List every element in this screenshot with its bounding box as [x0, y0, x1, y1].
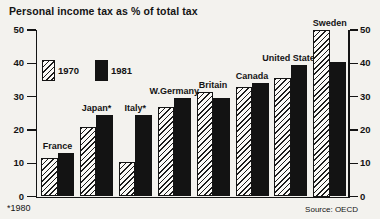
y-tick-left-50: [27, 29, 36, 31]
bar-1981-canada: [252, 83, 269, 196]
y-tick-label-left-20: 20: [2, 124, 24, 136]
legend-swatch-1981: [95, 60, 108, 81]
bar-1981-france: [58, 153, 75, 196]
country-label-britain: Britain: [199, 80, 228, 90]
country-label-japan: Japan*: [82, 103, 112, 113]
y-tick-right-30: [350, 96, 359, 98]
chart-title: Personal income tax as % of total tax: [9, 5, 198, 17]
bar-1970-britain: [197, 92, 214, 197]
y-tick-label-right-0: 0: [360, 191, 365, 203]
y-tick-right-40: [350, 63, 359, 65]
chart-panel: Personal income tax as % of total tax 19…: [0, 0, 380, 219]
bar-1970-italy: [119, 162, 136, 197]
bar-1981-sweden: [330, 62, 347, 197]
bar-1970-united-states: [274, 78, 291, 196]
bar-1981-italy: [135, 115, 152, 197]
country-label-united-states: United States: [262, 53, 320, 63]
x-axis-baseline: [36, 197, 350, 199]
bar-1981-w-germany: [174, 98, 191, 196]
y-tick-left-20: [27, 129, 36, 131]
legend-label-1970: 1970: [58, 65, 79, 76]
y-tick-label-right-50: 50: [360, 24, 371, 36]
source-credit: Source: OECD: [0, 205, 358, 214]
country-label-canada: Canada: [236, 71, 269, 81]
bar-1970-japan: [80, 127, 97, 197]
country-label-italy: Italy*: [125, 103, 147, 113]
y-tick-label-right-20: 20: [360, 124, 371, 136]
y-tick-left-10: [27, 163, 36, 165]
bar-1981-japan: [96, 115, 113, 197]
bar-1970-w-germany: [158, 107, 175, 197]
bar-1970-sweden: [313, 30, 330, 197]
y-tick-label-right-40: 40: [360, 57, 371, 69]
y-tick-label-right-10: 10: [360, 157, 371, 169]
legend-label-1981: 1981: [111, 65, 132, 76]
bar-1981-britain: [213, 98, 230, 196]
bar-1981-united-states: [291, 65, 308, 197]
y-tick-left-40: [27, 63, 36, 65]
y-tick-right-20: [350, 129, 359, 131]
y-axis-right: [348, 30, 350, 198]
y-tick-right-10: [350, 163, 359, 165]
y-tick-label-left-30: 30: [2, 91, 24, 103]
y-tick-right-0: [350, 196, 359, 198]
y-tick-label-left-0: 0: [2, 191, 24, 203]
y-tick-label-left-40: 40: [2, 57, 24, 69]
y-tick-right-50: [350, 29, 359, 31]
bar-1970-canada: [236, 87, 253, 197]
y-tick-label-left-50: 50: [2, 24, 24, 36]
y-tick-left-30: [27, 96, 36, 98]
country-label-w-germany: W.Germany: [149, 86, 199, 96]
bar-1970-france: [41, 158, 58, 196]
y-axis-left: [36, 30, 38, 198]
y-tick-left-0: [27, 196, 36, 198]
country-label-sweden: Sweden: [313, 18, 347, 28]
y-tick-label-right-30: 30: [360, 91, 371, 103]
legend-swatch-1970: [42, 60, 55, 81]
y-tick-label-left-10: 10: [2, 157, 24, 169]
country-label-france: France: [43, 141, 73, 151]
